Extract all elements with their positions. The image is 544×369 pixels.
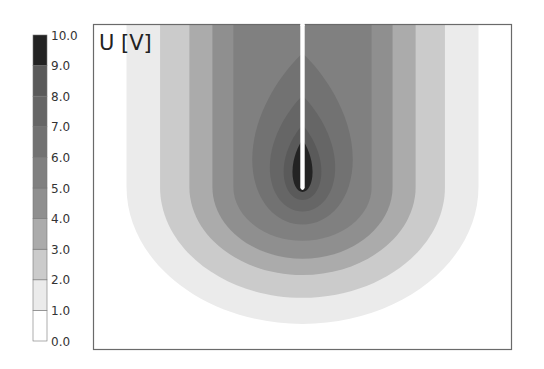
electrode-lead bbox=[300, 0, 304, 26]
colorbar-segment bbox=[33, 35, 47, 66]
colorbar-tick-label: 7.0 bbox=[51, 120, 70, 134]
colorbar-tick-label: 5.0 bbox=[51, 182, 70, 196]
plot-area: U [V] bbox=[93, 0, 512, 350]
colorbar-tick-label: 3.0 bbox=[51, 243, 70, 257]
colorbar-tick-label: 2.0 bbox=[51, 273, 70, 287]
colorbar-segment bbox=[33, 157, 47, 188]
colorbar-tick-label: 9.0 bbox=[51, 59, 70, 73]
colorbar-tick-label: 6.0 bbox=[51, 151, 70, 165]
electrode bbox=[300, 0, 304, 190]
colorbar-segment bbox=[33, 280, 47, 311]
colorbar: 0.01.02.03.04.05.06.07.08.09.010.0 bbox=[33, 29, 78, 349]
chart-title: U [V] bbox=[99, 31, 152, 55]
colorbar-segment bbox=[33, 310, 47, 341]
colorbar-tick-label: 4.0 bbox=[51, 212, 70, 226]
colorbar-tick-label: 8.0 bbox=[51, 90, 70, 104]
colorbar-segment bbox=[33, 219, 47, 250]
contour-chart: 0.01.02.03.04.05.06.07.08.09.010.0 U [V] bbox=[0, 0, 544, 369]
colorbar-segment bbox=[33, 249, 47, 280]
colorbar-segment bbox=[33, 188, 47, 219]
colorbar-segment bbox=[33, 96, 47, 127]
colorbar-segment bbox=[33, 127, 47, 158]
colorbar-tick-label: 1.0 bbox=[51, 304, 70, 318]
colorbar-tick-label: 10.0 bbox=[51, 29, 78, 43]
colorbar-segment bbox=[33, 66, 47, 97]
colorbar-tick-label: 0.0 bbox=[51, 335, 70, 349]
